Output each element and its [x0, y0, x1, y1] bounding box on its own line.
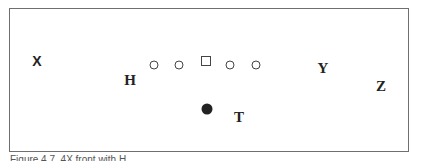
player-x-label: X [32, 54, 41, 68]
figure-caption: Figure 4.7. 4X front with H [10, 154, 126, 161]
player-z-label: Z [376, 79, 386, 94]
lineman-circle-1 [150, 61, 159, 70]
lineman-circle-3 [226, 61, 235, 70]
player-y-label: Y [318, 61, 329, 76]
diagram-frame [9, 8, 409, 152]
lineman-circle-2 [175, 61, 184, 70]
center-square [201, 56, 211, 66]
player-h-label: H [124, 73, 136, 88]
player-t-label: T [234, 110, 244, 125]
lineman-circle-4 [252, 61, 261, 70]
filled-circle-player [202, 104, 213, 115]
